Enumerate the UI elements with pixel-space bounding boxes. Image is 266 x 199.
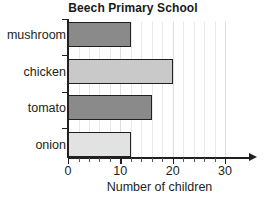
x-minor-tick-8	[110, 158, 111, 162]
x-minor-tick-16	[152, 158, 153, 162]
y-tick-2	[62, 92, 68, 93]
x-minor-tick-24	[194, 158, 195, 162]
x-minor-tick-6	[99, 158, 100, 162]
x-minor-tick-28	[215, 158, 216, 162]
category-label-tomato: tomato	[28, 101, 66, 115]
chart-title: Beech Primary School	[0, 1, 266, 15]
x-tick-label-0: 0	[65, 164, 72, 178]
y-axis	[67, 19, 69, 158]
category-label-onion: onion	[35, 138, 66, 152]
gridline-18	[162, 22, 163, 158]
plot-area	[68, 22, 225, 158]
bar-chicken	[68, 59, 173, 84]
category-label-mushroom: mushroom	[7, 28, 66, 42]
gridline-14	[141, 22, 142, 158]
gridline-22	[183, 22, 184, 158]
gridline-24	[194, 22, 195, 158]
gridline-28	[215, 22, 216, 158]
x-minor-tick-2	[79, 158, 80, 162]
x-minor-tick-4	[89, 158, 90, 162]
category-label-chicken: chicken	[24, 65, 66, 79]
bar-tomato	[68, 95, 152, 120]
gridline-12	[131, 22, 132, 158]
x-minor-tick-12	[131, 158, 132, 162]
bar-chart: Beech Primary School	[0, 0, 266, 199]
x-minor-tick-22	[183, 158, 184, 162]
x-axis	[68, 157, 251, 159]
x-tick-label-10: 10	[113, 164, 127, 178]
bar-mushroom	[68, 22, 131, 47]
gridline-20	[173, 22, 174, 158]
x-tick-label-30: 30	[218, 164, 232, 178]
y-tick-1	[62, 55, 68, 56]
y-tick-0	[62, 19, 68, 20]
y-tick-3	[62, 128, 68, 129]
x-axis-arrow-icon	[249, 153, 257, 161]
x-axis-title: Number of children	[68, 180, 251, 194]
bar-onion	[68, 132, 131, 157]
gridline-26	[204, 22, 205, 158]
x-minor-tick-18	[162, 158, 163, 162]
gridline-30	[225, 22, 226, 158]
x-minor-tick-14	[141, 158, 142, 162]
x-minor-tick-26	[204, 158, 205, 162]
gridline-16	[152, 22, 153, 158]
x-tick-label-20: 20	[166, 164, 180, 178]
